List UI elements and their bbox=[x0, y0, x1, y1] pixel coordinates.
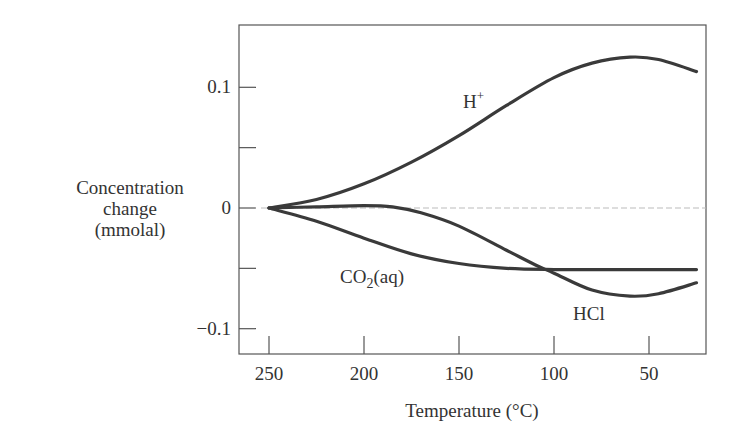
y-axis-label: Concentration change (mmolal) bbox=[60, 177, 200, 240]
x-tick-label: 50 bbox=[640, 363, 659, 384]
x-axis-label: Temperature (°C) bbox=[405, 400, 538, 422]
label-hcl: HCl bbox=[573, 303, 605, 324]
x-tick-label: 150 bbox=[445, 363, 474, 384]
x-tick-label: 250 bbox=[255, 363, 284, 384]
y-tick-label: −0.1 bbox=[197, 318, 231, 339]
y-tick-label: 0 bbox=[222, 197, 232, 218]
y-axis-ticks: 0.10−0.1 bbox=[197, 76, 256, 338]
y-axis-label-line: Concentration bbox=[60, 177, 200, 198]
series-line-h bbox=[269, 57, 697, 208]
x-tick-label: 100 bbox=[540, 363, 569, 384]
plot-border bbox=[239, 25, 706, 354]
x-tick-label: 200 bbox=[350, 363, 379, 384]
y-tick-label: 0.1 bbox=[207, 76, 231, 97]
y-axis-label-line: (mmolal) bbox=[60, 219, 200, 240]
label-co2-aq: CO2(aq) bbox=[340, 266, 404, 291]
x-axis-ticks: 25020015010050 bbox=[255, 336, 659, 384]
label-h-plus: H+ bbox=[463, 88, 484, 112]
series-line-hcl bbox=[269, 206, 697, 297]
y-axis-label-line: change bbox=[60, 198, 200, 219]
plot-frame bbox=[239, 25, 706, 354]
